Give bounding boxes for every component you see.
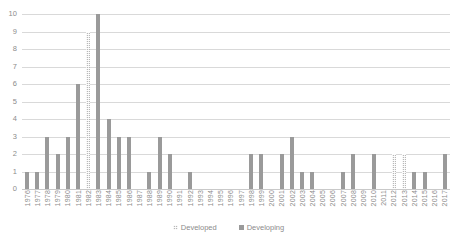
legend-swatch-icon — [173, 225, 178, 230]
bar-developing-2002 — [290, 137, 294, 190]
y-axis: 012345678910 — [0, 14, 20, 189]
x-axis-tick-label: 1999 — [258, 190, 265, 206]
x-axis-tick-label: 1985 — [115, 190, 122, 206]
x-axis-tick-label: 1982 — [85, 190, 92, 206]
bar-slot — [409, 14, 419, 189]
bar-slot — [216, 14, 226, 189]
x-axis-tick-label: 1987 — [136, 190, 143, 206]
x-axis-tick-label: 2001 — [278, 190, 285, 206]
legend-label: Developed — [181, 224, 217, 232]
bar-slot — [379, 14, 389, 189]
bar-developing-1981 — [76, 84, 80, 189]
bar-developing-1992 — [188, 172, 192, 190]
bar-slot — [368, 14, 378, 189]
bar-slot — [185, 14, 195, 189]
x-axis-tick-label: 1990 — [166, 190, 173, 206]
bar-slot — [328, 14, 338, 189]
bar-developing-1989 — [158, 137, 162, 190]
bar-developing-2008 — [351, 154, 355, 189]
bar-developing-1979 — [56, 154, 60, 189]
bar-slot — [83, 14, 93, 189]
x-axis-tick-label: 2004 — [309, 190, 316, 206]
bar-group — [22, 14, 450, 189]
x-axis-tick-label: 2006 — [329, 190, 336, 206]
bar-developing-1988 — [147, 172, 151, 190]
x-axis-tick-label: 2009 — [360, 190, 367, 206]
y-axis-tick-label: 3 — [13, 133, 17, 141]
x-axis-tick-label: 1986 — [126, 190, 133, 206]
bar-developing-2004 — [310, 172, 314, 190]
bar-developed-2012 — [392, 154, 396, 189]
bar-slot — [114, 14, 124, 189]
x-axis-tick-label: 1984 — [105, 190, 112, 206]
bar-developing-2017 — [443, 154, 447, 189]
x-axis-tick-label: 1993 — [197, 190, 204, 206]
bar-slot — [63, 14, 73, 189]
bar-slot — [73, 14, 83, 189]
bar-slot — [236, 14, 246, 189]
x-axis-tick-label: 2016 — [431, 190, 438, 206]
x-axis-tick-label: 1978 — [44, 190, 51, 206]
bar-developing-2001 — [280, 154, 284, 189]
bar-slot — [154, 14, 164, 189]
chart-legend: DevelopedDeveloping — [0, 224, 457, 232]
bar-developing-2014 — [412, 172, 416, 190]
bar-slot — [338, 14, 348, 189]
y-axis-tick-label: 9 — [13, 28, 17, 36]
bar-slot — [124, 14, 134, 189]
bar-slot — [399, 14, 409, 189]
bar-slot — [256, 14, 266, 189]
bar-developing-2007 — [341, 172, 345, 190]
y-axis-tick-label: 4 — [13, 115, 17, 123]
bar-developing-1983 — [96, 14, 100, 189]
bar-chart: 012345678910 197619771978197919801981198… — [0, 0, 457, 243]
x-axis-tick-label: 2002 — [289, 190, 296, 206]
bar-slot — [348, 14, 358, 189]
y-axis-tick-label: 7 — [13, 63, 17, 71]
x-axis-tick-label: 1989 — [156, 190, 163, 206]
legend-item-developing[interactable]: Developing — [239, 224, 285, 232]
bar-slot — [175, 14, 185, 189]
bar-slot — [430, 14, 440, 189]
y-axis-tick-label: 6 — [13, 80, 17, 88]
bar-slot — [277, 14, 287, 189]
y-axis-tick-label: 1 — [13, 168, 17, 176]
bar-slot — [134, 14, 144, 189]
bar-slot — [419, 14, 429, 189]
y-axis-tick-label: 10 — [8, 10, 17, 18]
x-axis-tick-label: 1996 — [227, 190, 234, 206]
bar-slot — [389, 14, 399, 189]
bar-slot — [144, 14, 154, 189]
bar-slot — [22, 14, 32, 189]
bar-slot — [267, 14, 277, 189]
x-axis-tick-label: 2014 — [411, 190, 418, 206]
bar-developing-1986 — [127, 137, 131, 190]
bar-slot — [32, 14, 42, 189]
bar-developed-2013 — [402, 154, 406, 189]
bar-developing-2015 — [423, 172, 427, 190]
bar-slot — [297, 14, 307, 189]
x-axis-tick-label: 2017 — [441, 190, 448, 206]
x-axis-tick-label: 2000 — [268, 190, 275, 206]
x-axis: 1976197719781979198019811982198319841985… — [22, 190, 450, 222]
x-axis-tick-label: 2005 — [319, 190, 326, 206]
bar-slot — [195, 14, 205, 189]
x-axis-tick-label: 1991 — [176, 190, 183, 206]
x-axis-tick-label: 1977 — [34, 190, 41, 206]
x-axis-tick-label: 2007 — [340, 190, 347, 206]
y-axis-tick-label: 2 — [13, 150, 17, 158]
bar-developed-1982 — [86, 32, 90, 190]
x-axis-tick-label: 1998 — [248, 190, 255, 206]
y-axis-tick-label: 0 — [13, 185, 17, 193]
bar-slot — [42, 14, 52, 189]
legend-item-developed[interactable]: Developed — [173, 224, 217, 232]
x-axis-tick-label: 2010 — [370, 190, 377, 206]
y-axis-tick-label: 8 — [13, 45, 17, 53]
y-axis-tick-label: 5 — [13, 98, 17, 106]
bar-developing-2010 — [372, 154, 376, 189]
plot-area — [22, 14, 450, 189]
x-axis-tick-label: 2013 — [401, 190, 408, 206]
bar-developing-1999 — [259, 154, 263, 189]
x-axis-tick-label: 2008 — [350, 190, 357, 206]
bar-developing-1977 — [35, 172, 39, 190]
